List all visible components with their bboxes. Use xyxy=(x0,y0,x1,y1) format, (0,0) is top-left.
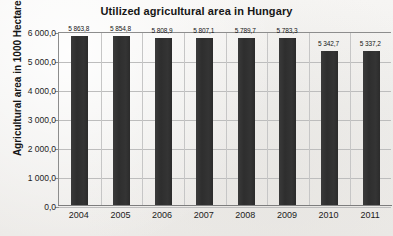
bar-value-label: 5 863,8 xyxy=(57,25,101,32)
x-axis-tick-label: 2009 xyxy=(264,210,310,220)
y-axis-tick-label: 4 000,0 xyxy=(0,86,56,96)
bar-value-label: 5 789,7 xyxy=(223,27,267,34)
x-axis-tick-label: 2008 xyxy=(222,210,268,220)
y-axis-tick-label: 1 000,0 xyxy=(0,173,56,183)
y-axis-title: Agricultural area in 1000 Hectares xyxy=(12,0,23,159)
bar-value-label: 5 337,2 xyxy=(348,40,392,47)
bar-value-label: 5 807,1 xyxy=(182,27,226,34)
category-separator-line xyxy=(350,33,351,206)
bar[interactable] xyxy=(279,38,296,206)
bar[interactable] xyxy=(238,38,255,206)
y-axis-tick-label: 5 000,0 xyxy=(0,57,56,67)
bar[interactable] xyxy=(321,51,338,206)
gridline xyxy=(59,207,391,208)
bar[interactable] xyxy=(196,38,213,206)
category-separator-line xyxy=(142,33,143,206)
y-axis-tick-label: 6 000,0 xyxy=(0,28,56,38)
category-separator-line xyxy=(267,33,268,206)
x-axis-tick-label: 2011 xyxy=(347,210,393,220)
y-axis-tick-label: 3 000,0 xyxy=(0,115,56,125)
bar-value-label: 5 854,8 xyxy=(98,25,142,32)
bar-value-label: 5 808,9 xyxy=(140,27,184,34)
bar[interactable] xyxy=(71,36,88,206)
chart-title: Utilized agricultural area in Hungary xyxy=(0,5,393,17)
bar-chart: Utilized agricultural area in Hungary Ag… xyxy=(0,0,393,236)
category-separator-line xyxy=(101,33,102,206)
bar[interactable] xyxy=(363,51,380,206)
category-separator-line xyxy=(184,33,185,206)
x-axis-tick-label: 2007 xyxy=(181,210,227,220)
x-axis-line xyxy=(58,205,392,206)
x-axis-tick-label: 2004 xyxy=(56,210,102,220)
plot-area: 0,01 000,02 000,03 000,04 000,05 000,06 … xyxy=(58,32,391,206)
bar-value-label: 5 342,7 xyxy=(307,40,351,47)
category-separator-line xyxy=(226,33,227,206)
category-separator-line xyxy=(309,33,310,206)
x-axis-tick-label: 2010 xyxy=(306,210,352,220)
bar-value-label: 5 783,3 xyxy=(265,27,309,34)
bar[interactable] xyxy=(155,38,172,206)
bar[interactable] xyxy=(113,36,130,206)
y-axis-tick-label: 0,0 xyxy=(0,202,56,212)
y-axis-tick-label: 2 000,0 xyxy=(0,144,56,154)
x-axis-tick-label: 2006 xyxy=(139,210,185,220)
x-axis-tick-label: 2005 xyxy=(97,210,143,220)
